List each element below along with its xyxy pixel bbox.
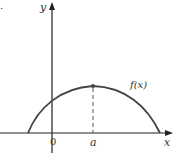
curve-label: f(x) (129, 79, 147, 90)
y-axis-label: y (39, 1, 47, 14)
max-point (91, 84, 95, 88)
a-label: a (90, 136, 97, 149)
y-axis-arrow-icon (49, 2, 55, 10)
panel-marker: . (0, 0, 3, 11)
diagram: . y x f(x) 0 a (0, 0, 174, 155)
curve-f (28, 86, 160, 133)
origin-label: 0 (50, 136, 56, 147)
x-axis-label: x (164, 136, 171, 149)
